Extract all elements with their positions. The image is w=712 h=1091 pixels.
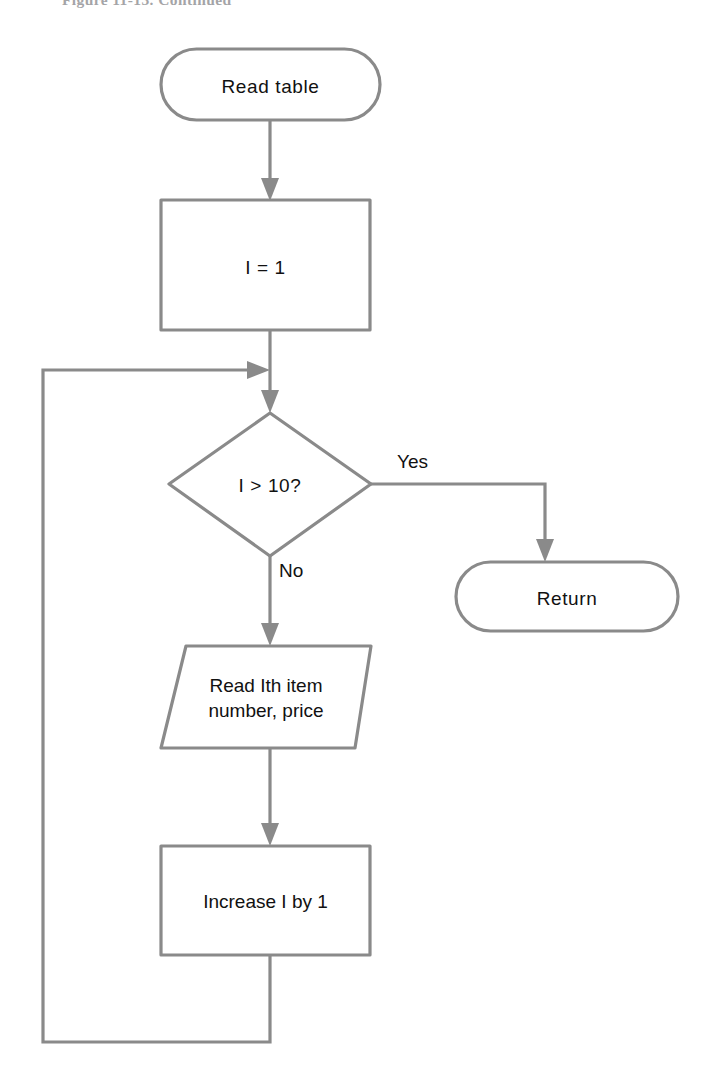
node-increment-shape: [161, 846, 370, 955]
edge-test-to-read-item: [261, 556, 279, 646]
flowchart-canvas: [0, 0, 712, 1091]
node-init-shape: [161, 200, 370, 330]
edge-test-to-return: [371, 484, 554, 562]
node-read-item-shape: [161, 646, 371, 748]
edge-read-item-to-increment: [261, 748, 279, 846]
figure-container: Figure 11-13. Continued: [0, 0, 712, 1091]
node-start-shape: [161, 49, 380, 120]
edge-start-to-init: [261, 120, 279, 201]
node-test-shape: [169, 413, 371, 556]
node-return-shape: [456, 562, 678, 631]
